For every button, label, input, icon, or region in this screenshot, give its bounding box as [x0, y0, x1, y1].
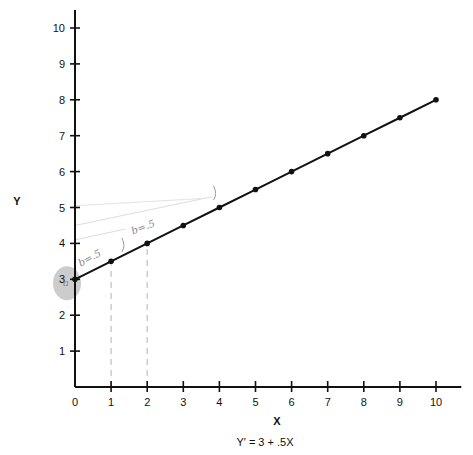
data-point — [144, 241, 150, 247]
x-tick-label: 5 — [252, 396, 258, 408]
regression-line-chart: 01234567891012345678910YXY′ = 3 + .5Xb=.… — [0, 0, 473, 455]
pencil-brace — [214, 186, 216, 200]
x-tick-label: 0 — [72, 396, 78, 408]
data-point — [289, 169, 295, 175]
y-axis-title: Y — [13, 195, 21, 207]
y-tick-label: 9 — [59, 58, 65, 70]
data-point — [433, 97, 439, 103]
data-point — [217, 205, 223, 211]
y-tick-label: 5 — [59, 202, 65, 214]
data-point — [397, 115, 403, 121]
y-tick-label: 6 — [59, 166, 65, 178]
equation-caption: Y′ = 3 + .5X — [236, 436, 294, 448]
x-axis-title: X — [273, 415, 281, 427]
x-tick-label: 10 — [430, 396, 442, 408]
x-tick-label: 2 — [144, 396, 150, 408]
x-tick-label: 4 — [216, 396, 222, 408]
y-tick-label: 1 — [59, 345, 65, 357]
handwritten-note: b=.5 — [76, 247, 103, 268]
y-tick-label: 4 — [59, 237, 65, 249]
handwritten-note: b=.5 — [130, 218, 157, 237]
data-point — [361, 133, 367, 139]
data-point — [325, 151, 331, 157]
y-tick-label: 10 — [53, 22, 65, 34]
data-point — [72, 277, 78, 283]
y-tick-label: 8 — [59, 94, 65, 106]
x-tick-label: 6 — [289, 396, 295, 408]
pencil-brace — [122, 238, 124, 252]
x-tick-label: 3 — [180, 396, 186, 408]
pencil-line — [75, 229, 126, 240]
handwritten-note: a — [63, 277, 69, 288]
x-tick-label: 7 — [325, 396, 331, 408]
x-tick-label: 9 — [397, 396, 403, 408]
data-point — [181, 223, 187, 229]
x-tick-label: 1 — [108, 396, 114, 408]
y-tick-label: 2 — [59, 309, 65, 321]
y-tick-label: 7 — [59, 130, 65, 142]
data-point — [108, 259, 114, 265]
pencil-line — [75, 199, 201, 206]
x-tick-label: 8 — [361, 396, 367, 408]
data-point — [253, 187, 259, 193]
